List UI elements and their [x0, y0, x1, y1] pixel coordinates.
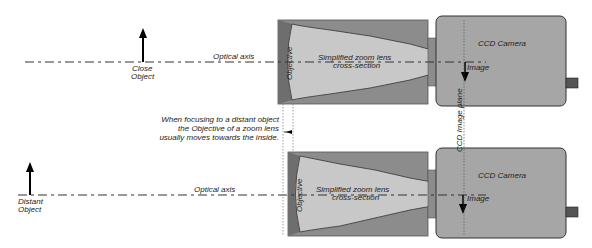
bottom-image-label: Image — [467, 194, 490, 203]
top-camera-connector — [566, 78, 578, 88]
bottom-objective-label: Objective — [295, 178, 304, 212]
top-image-label: Image — [467, 63, 490, 72]
top-object-arrowhead — [139, 28, 147, 38]
bottom-ccd-camera — [436, 148, 566, 238]
top-camera-label: CCD Camera — [478, 39, 527, 48]
bottom-object-arrowhead — [26, 162, 34, 172]
note-line-1: When focusing to a distant object — [161, 115, 280, 124]
bottom-camera-label: CCD Camera — [478, 171, 527, 180]
bottom-system: Distant Object Optical axis Objective Si… — [18, 148, 578, 238]
zoom-lens-diagram: Close Object Optical axis Objective Simp… — [0, 0, 592, 248]
note-line-3: usually moves towards the inside. — [159, 133, 279, 142]
top-system: Close Object Optical axis Objective Simp… — [25, 16, 578, 106]
top-objective-label: Objective — [285, 46, 294, 80]
bottom-object-label-2: Object — [18, 205, 42, 214]
note-line-2: the Objective of a zoom lens — [178, 124, 279, 133]
bottom-camera-connector — [566, 207, 578, 217]
top-lens-label-2: cross-section — [333, 61, 381, 70]
image-plane-label: CCD Image plane — [455, 88, 464, 152]
bottom-lens-label-2: cross-section — [332, 193, 380, 202]
top-object-label-2: Object — [131, 72, 155, 81]
top-axis-label: Optical axis — [213, 52, 254, 61]
bottom-axis-label: Optical axis — [194, 185, 235, 194]
